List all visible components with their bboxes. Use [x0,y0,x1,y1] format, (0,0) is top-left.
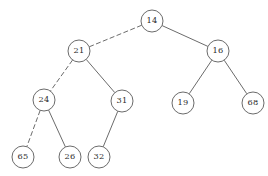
tree-node-65[interactable]: 65 [12,146,34,168]
node-label-16: 16 [213,45,224,55]
node-label-26: 26 [65,151,76,161]
tree-edge-16-68 [224,61,246,94]
tree-node-21[interactable]: 21 [68,40,90,62]
tree-node-14[interactable]: 14 [141,10,163,32]
tree-edge-14-21 [90,25,142,46]
binary-tree-diagram: 14211624311968652632 [0,0,268,176]
node-layer: 14211624311968652632 [12,10,264,168]
node-label-21: 21 [74,45,85,55]
node-label-31: 31 [117,95,128,105]
tree-node-26[interactable]: 26 [59,146,81,168]
node-label-68: 68 [248,97,259,107]
tree-node-31[interactable]: 31 [111,90,133,112]
node-label-24: 24 [39,94,50,104]
tree-edge-24-26 [49,110,65,146]
node-label-65: 65 [18,151,29,161]
node-label-19: 19 [178,97,189,107]
figure-caption-fragment [0,0,268,5]
tree-edge-31-32 [103,112,117,147]
tree-edge-21-31 [87,60,115,93]
tree-node-16[interactable]: 16 [207,40,229,62]
tree-edge-14-16 [162,26,207,46]
node-label-32: 32 [94,151,105,161]
tree-node-68[interactable]: 68 [242,92,264,114]
tree-node-24[interactable]: 24 [33,89,55,111]
tree-edge-16-19 [189,61,211,94]
tree-node-32[interactable]: 32 [88,146,110,168]
tree-edge-21-24 [51,60,73,90]
tree-node-19[interactable]: 19 [172,92,194,114]
tree-canvas: 14211624311968652632 [0,0,268,176]
node-label-14: 14 [147,15,158,25]
tree-edge-24-65 [27,111,40,146]
